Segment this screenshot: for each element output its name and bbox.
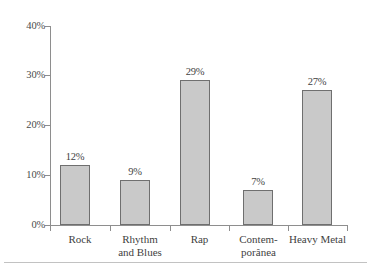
x-tick-boundary-5: [347, 225, 348, 231]
category-label-rock: Rock: [50, 233, 110, 246]
bar-rock[interactable]: [60, 165, 90, 225]
y-tick-label-20: 20%: [3, 120, 45, 131]
y-tick-label-40: 40%: [3, 21, 45, 32]
bar-value-rhythm-and-blues: 9%: [110, 166, 160, 177]
plot-area: 0% 10% 20% 30% 40% 12% 9%: [0, 0, 371, 270]
bar-rhythm-and-blues[interactable]: [120, 180, 150, 225]
category-label-contemporanea-line-2: porânea: [229, 246, 288, 259]
y-tick-label-30: 30%: [3, 70, 45, 81]
y-tick-label-0: 0%: [3, 220, 45, 231]
bar-contemporanea[interactable]: [243, 190, 273, 225]
x-tick-boundary-4: [288, 225, 289, 231]
y-tick-10: [45, 175, 50, 176]
category-label-rhythm-and-blues-line-2: and Blues: [107, 246, 173, 259]
category-label-contemporanea-line-1: Contem-: [229, 233, 288, 246]
x-tick-boundary-0: [50, 225, 51, 231]
y-tick-label-10: 10%: [3, 170, 45, 181]
category-label-rap-line-1: Rap: [170, 233, 229, 246]
bar-rap[interactable]: [180, 80, 210, 225]
y-tick-20: [45, 125, 50, 126]
x-tick-boundary-1: [110, 225, 111, 231]
y-tick-30: [45, 75, 50, 76]
category-label-rhythm-and-blues-line-1: Rhythm: [107, 233, 173, 246]
bar-value-rock: 12%: [50, 151, 100, 162]
bar-chart-figure: 0% 10% 20% 30% 40% 12% 9%: [0, 0, 371, 270]
bar-value-heavy-metal: 27%: [292, 76, 342, 87]
bar-value-rap: 29%: [170, 66, 220, 77]
bar-heavy-metal[interactable]: [302, 90, 332, 225]
category-label-contemporanea: Contem- porânea: [229, 233, 288, 259]
category-label-heavy-metal: Heavy Metal: [288, 233, 347, 246]
x-tick-boundary-2: [170, 225, 171, 231]
category-label-rhythm-and-blues: Rhythm and Blues: [107, 233, 173, 259]
y-tick-40: [45, 26, 50, 27]
bottom-divider: [4, 262, 367, 263]
x-axis-line: [50, 225, 347, 226]
bar-value-contemporanea: 7%: [233, 176, 283, 187]
category-label-rock-line-1: Rock: [50, 233, 110, 246]
y-axis-line: [50, 26, 51, 225]
category-label-heavy-metal-line-1: Heavy Metal: [288, 233, 347, 246]
category-label-rap: Rap: [170, 233, 229, 246]
x-tick-boundary-3: [229, 225, 230, 231]
